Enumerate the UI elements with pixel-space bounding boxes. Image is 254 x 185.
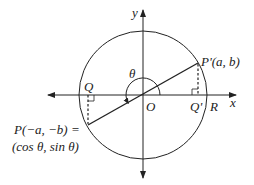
diagram-graphics	[0, 0, 254, 185]
q-prime-label: Q'	[190, 100, 202, 113]
theta-label: θ	[129, 67, 135, 80]
origin-label: O	[146, 100, 155, 113]
r-label: R	[210, 100, 218, 113]
y-axis-label: y	[132, 6, 138, 19]
unit-circle-diagram: y x O Q Q' R θ P'(a, b) P(−a, −b) = (cos…	[0, 0, 254, 185]
right-angle-marker-q	[88, 95, 94, 101]
p-label-line1: P(−a, −b) =	[14, 123, 80, 136]
x-axis-label: x	[230, 96, 236, 109]
p-label-line2: (cos θ, sin θ)	[12, 140, 79, 153]
q-label: Q	[84, 80, 93, 93]
right-angle-marker-qprime	[192, 89, 198, 95]
p-prime-label: P'(a, b)	[201, 55, 240, 68]
